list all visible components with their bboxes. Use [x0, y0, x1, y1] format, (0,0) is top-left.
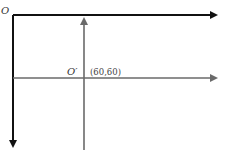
coordinate-diagram: O O′ (60,60) — [0, 0, 229, 160]
new-origin-label: O′ — [67, 66, 78, 77]
new-origin-coordinates: (60,60) — [90, 67, 121, 77]
origin-label: O — [1, 5, 9, 16]
